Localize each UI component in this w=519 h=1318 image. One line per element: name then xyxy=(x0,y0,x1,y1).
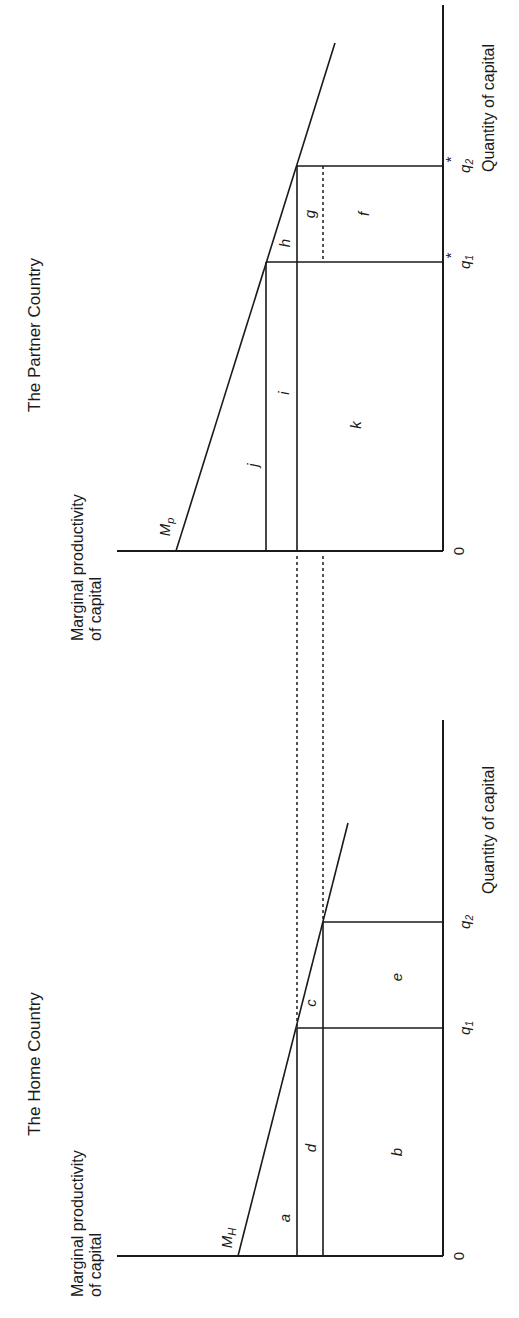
partner-mp-curve xyxy=(176,43,335,551)
partner-area-f: f xyxy=(355,210,372,216)
capital-mobility-diagram: The Partner Country Marginal productivit… xyxy=(0,0,519,1318)
home-q1-label: q1 xyxy=(456,1021,475,1035)
partner-curve-label: Mp xyxy=(156,518,176,537)
partner-origin-label: 0 xyxy=(450,547,467,555)
home-y-axis-label-line2: of capital xyxy=(87,1233,104,1297)
svg-text:Mp: Mp xyxy=(156,518,176,537)
svg-text:q1: q1 xyxy=(456,1021,475,1035)
cross-panel-connectors xyxy=(297,556,323,1028)
partner-area-j: j xyxy=(244,463,261,469)
home-q2-label: q2 xyxy=(456,915,475,929)
partner-title: The Partner Country xyxy=(25,257,44,412)
partner-q1-star-label: q1 * xyxy=(442,252,475,269)
partner-y-axis-label-line2: of capital xyxy=(87,577,104,641)
home-area-b: b xyxy=(388,1148,405,1156)
svg-text:*: * xyxy=(442,252,459,259)
home-area-d: d xyxy=(302,1143,319,1152)
partner-panel: The Partner Country Marginal productivit… xyxy=(25,5,497,641)
svg-text:q2: q2 xyxy=(456,915,475,929)
svg-text:*: * xyxy=(442,156,459,163)
partner-area-i: i xyxy=(275,391,292,395)
partner-area-h: h xyxy=(276,239,293,247)
partner-q2-star-label: q2 * xyxy=(442,156,475,173)
home-area-c: c xyxy=(302,999,319,1007)
home-mh-curve xyxy=(238,823,348,1256)
home-panel: The Home Country Marginal productivity o… xyxy=(25,720,497,1297)
partner-area-g: g xyxy=(301,209,318,218)
home-title: The Home Country xyxy=(25,992,44,1136)
home-area-a: a xyxy=(276,1214,293,1222)
home-x-axis-label: Quantity of capital xyxy=(480,766,497,894)
home-origin-label: 0 xyxy=(450,1252,467,1260)
home-y-axis-label-line1: Marginal productivity xyxy=(69,1150,86,1297)
partner-x-axis-label: Quantity of capital xyxy=(480,44,497,172)
home-area-e: e xyxy=(388,973,405,981)
partner-area-k: k xyxy=(347,420,364,429)
svg-text:MH: MH xyxy=(218,1228,238,1249)
partner-y-axis-label-line1: Marginal productivity xyxy=(69,494,86,641)
home-curve-label: MH xyxy=(218,1228,238,1249)
